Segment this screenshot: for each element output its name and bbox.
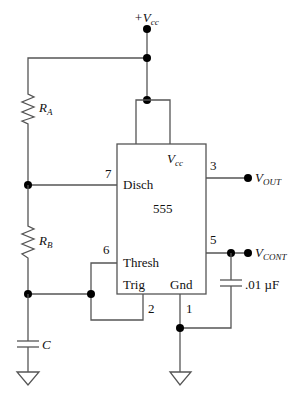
- ground-icon-right: [170, 372, 191, 385]
- vcc-reset-loop: [136, 100, 170, 144]
- gnd-junction: [176, 324, 184, 332]
- vcont-label: VCONT: [255, 245, 287, 262]
- vout-terminal: [244, 174, 252, 182]
- chip-name-label: 555: [153, 201, 173, 216]
- pin-disch-label: Disch: [123, 177, 154, 192]
- chip-555-body: [117, 144, 206, 294]
- pin-trig-number: 2: [148, 301, 155, 316]
- vcc-supply-label: +Vcc: [134, 10, 159, 27]
- pin-trig-label: Trig: [123, 277, 145, 292]
- circuit-diagram: +Vcc RA RB C .01 µF Vcc 555 Disch 7 Thre…: [0, 0, 299, 397]
- capacitor-c: [17, 294, 39, 372]
- resistor-rb: [22, 185, 34, 294]
- pin-cont-number: 5: [210, 232, 217, 247]
- vcc-junction: [143, 54, 151, 62]
- pin-thresh-label: Thresh: [123, 255, 160, 270]
- c-label: C: [42, 337, 51, 352]
- pin-thresh-number: 6: [103, 242, 110, 257]
- rb-label: RB: [38, 233, 53, 250]
- schematic: +Vcc RA RB C .01 µF Vcc 555 Disch 7 Thre…: [0, 0, 299, 397]
- ground-icon-left: [17, 372, 39, 385]
- ra-label: RA: [38, 100, 53, 117]
- vout-label: VOUT: [255, 170, 282, 187]
- pin-gnd-number: 1: [186, 301, 193, 316]
- vcont-terminal: [244, 249, 252, 257]
- resistor-ra: [22, 91, 34, 185]
- pin-gnd-label: Gnd: [170, 277, 193, 292]
- timing-junction-right: [87, 290, 95, 298]
- ccont-label: .01 µF: [245, 277, 279, 292]
- vcc-rail: [28, 29, 147, 100]
- pin-disch-number: 7: [105, 166, 112, 181]
- chip-vcc-label: Vcc: [167, 151, 183, 168]
- pin-out-number: 3: [210, 158, 217, 173]
